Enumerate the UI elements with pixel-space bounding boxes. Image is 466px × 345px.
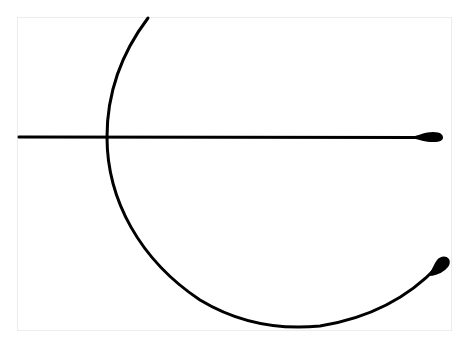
stroke-drawing bbox=[0, 0, 466, 345]
arc-stroke-teardrop-tip bbox=[428, 256, 450, 276]
horizontal-stroke-teardrop-tip bbox=[410, 132, 443, 142]
arc-stroke bbox=[107, 18, 438, 327]
horizontal-stroke bbox=[19, 137, 420, 138]
diagram-canvas bbox=[0, 0, 466, 345]
